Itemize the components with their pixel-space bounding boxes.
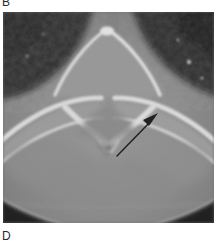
panel-letter-top: B [2,0,10,8]
panel-letter-bottom: D [2,230,11,242]
ct-noise-overlay [3,12,214,223]
ct-scan-canvas [3,12,214,223]
ct-scan-image [3,12,214,223]
